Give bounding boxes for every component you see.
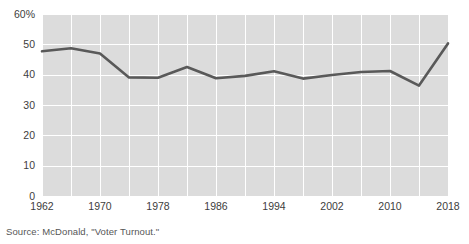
x-axis-tick-label: 2002: [320, 200, 344, 212]
y-axis-tick-label: 60%: [14, 8, 35, 20]
source-note: Source: McDonald, "Voter Turnout.": [6, 226, 159, 237]
y-axis-tick-labels: 0102030405060%: [14, 8, 35, 202]
y-axis-tick-label: 30: [23, 99, 35, 111]
x-axis-tick-label: 1986: [204, 200, 228, 212]
voter-turnout-chart-figure: 0102030405060% 1962197019781986199420022…: [0, 0, 469, 244]
x-axis-tick-label: 1978: [146, 200, 170, 212]
x-axis-tick-label: 1994: [262, 200, 286, 212]
y-axis-tick-label: 50: [23, 38, 35, 50]
x-axis-tick-labels: 19621970197819861994200220102018: [30, 200, 460, 212]
y-axis-tick-label: 20: [23, 129, 35, 141]
x-axis-tick-label: 2010: [378, 200, 402, 212]
chart-canvas: 0102030405060% 1962197019781986199420022…: [0, 0, 469, 244]
y-axis-tick-label: 40: [23, 68, 35, 80]
x-axis-tick-label: 1970: [88, 200, 112, 212]
x-axis-tick-label: 2018: [436, 200, 460, 212]
x-axis-tick-label: 1962: [30, 200, 54, 212]
y-axis-tick-label: 10: [23, 159, 35, 171]
